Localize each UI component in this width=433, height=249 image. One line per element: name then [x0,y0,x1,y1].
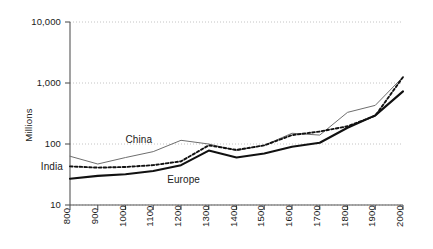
x-tick-label: 2000 [394,205,405,227]
y-tick-label: 100 [45,138,61,149]
x-tick-label: 800 [61,208,72,224]
x-tick-label: 1200 [172,205,183,227]
x-tick-label: 1300 [200,205,211,227]
x-tick-label: 1900 [366,205,377,227]
series-label-china: China [126,134,153,145]
y-axis-title: Millions [23,108,34,141]
x-tick-label: 900 [89,208,100,224]
x-tick-label: 1700 [311,205,322,227]
series-label-india: India [41,161,64,172]
x-tick-label: 1400 [228,205,239,227]
chart-svg: 101001,00010,000 80090010001100120013001… [0,0,433,249]
y-tick-label: 1,000 [37,77,61,88]
x-tick-label: 1600 [283,205,294,227]
x-tick-label: 1100 [144,205,155,226]
y-tick-label: 10 [50,199,61,210]
x-tick-label: 1800 [339,205,350,227]
y-tick-label: 10,000 [31,16,61,27]
x-tick-label: 1500 [255,205,266,227]
series-label-europe: Europe [167,174,200,185]
population-line-chart: 101001,00010,000 80090010001100120013001… [0,0,433,249]
x-tick-label: 1000 [117,205,128,227]
